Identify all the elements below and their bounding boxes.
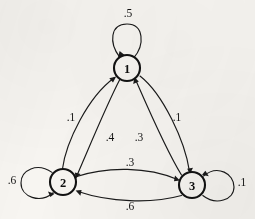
edge-1-to-3-label: .1 <box>173 111 182 123</box>
edge-3-to-1 <box>133 77 181 175</box>
edge-1-to-2-path <box>77 80 120 177</box>
self-loop-2-path <box>21 168 53 199</box>
self-loop-1-label: .5 <box>124 7 133 19</box>
edge-3-to-1-path <box>136 80 182 176</box>
diagram-canvas: 1 2 3 .5 .6 .1 .1 .4 .3 .1 .3 .6 <box>0 0 255 219</box>
edge-2-to-1-arrowhead <box>109 76 116 82</box>
edge-2-to-3 <box>75 169 180 181</box>
edge-3-to-2-arrowhead <box>76 190 82 196</box>
node-1-label: 1 <box>124 62 130 76</box>
node-3[interactable]: 3 <box>179 172 205 198</box>
self-loop-1-path <box>113 24 141 58</box>
edge-3-to-2-label: .6 <box>126 200 135 212</box>
edge-1-to-3-path <box>140 76 190 172</box>
self-loop-node-1 <box>113 24 141 58</box>
node-3-label: 3 <box>189 179 195 193</box>
edge-1-to-2-label: .4 <box>106 131 115 143</box>
self-loop-2-label: .6 <box>8 174 17 186</box>
self-loop-3-label: .1 <box>238 176 247 188</box>
edge-2-to-1-label: .1 <box>67 111 76 123</box>
self-loop-node-3 <box>202 171 234 201</box>
state-transition-diagram: 1 2 3 .5 .6 .1 .1 .4 .3 .1 .3 .6 <box>0 0 255 219</box>
node-2-label: 2 <box>60 176 66 190</box>
node-2[interactable]: 2 <box>50 169 76 195</box>
node-1[interactable]: 1 <box>114 55 140 81</box>
edge-3-to-1-label: .3 <box>135 131 144 143</box>
edge-2-to-3-path <box>75 169 178 179</box>
edge-2-to-3-label: .3 <box>126 156 135 168</box>
edge-1-to-3 <box>140 76 193 174</box>
edge-2-to-1-path <box>63 78 115 169</box>
